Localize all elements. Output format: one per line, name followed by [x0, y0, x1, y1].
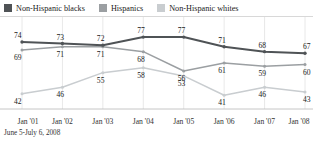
data-label: 60	[303, 69, 311, 77]
data-point	[182, 70, 185, 73]
data-point	[222, 45, 225, 48]
legend-item-hispanics: Hispanics	[99, 4, 143, 13]
data-point	[223, 61, 226, 64]
legend-swatch-hispanics	[99, 4, 107, 12]
data-label: 71	[218, 37, 226, 45]
data-point	[263, 65, 266, 68]
x-tick-label: Jan '07	[254, 117, 275, 126]
data-label: 53	[178, 80, 186, 88]
data-label: 41	[218, 99, 226, 107]
data-point	[101, 71, 104, 74]
data-label: 68	[259, 42, 267, 50]
legend-swatch-blacks	[4, 4, 12, 12]
data-point	[61, 86, 64, 89]
x-tick-label: Jan '04	[133, 117, 154, 126]
data-label: 43	[303, 96, 311, 104]
data-label: 74	[14, 32, 22, 40]
x-axis: Jan '01Jan '02Jan '03Jan '04Jan '05Jan '…	[0, 111, 313, 127]
x-tick-label: Jan '05	[173, 117, 194, 126]
data-point	[101, 43, 104, 46]
data-label: 67	[303, 43, 311, 51]
data-label: 72	[97, 35, 105, 43]
data-point	[61, 42, 64, 45]
data-label: 77	[178, 27, 186, 35]
data-point	[142, 66, 145, 69]
data-label: 55	[97, 77, 105, 85]
chart-legend: Non-Hispanic blacks Hispanics Non-Hispan…	[4, 1, 253, 15]
data-point	[182, 35, 185, 38]
legend-label-whites: Non-Hispanic whites	[169, 4, 238, 13]
data-point	[21, 92, 24, 95]
x-tick-label: Jan '01	[18, 117, 39, 126]
x-tick-label: Jan '03	[92, 117, 113, 126]
footnote: June 5-July 6, 2008	[4, 129, 60, 138]
data-point	[263, 86, 266, 89]
legend-swatch-whites	[157, 4, 165, 12]
data-point	[303, 52, 306, 55]
data-label: 46	[259, 91, 267, 99]
data-point	[223, 94, 226, 97]
data-label: 61	[218, 67, 226, 75]
data-point	[20, 40, 23, 43]
data-point	[142, 35, 145, 38]
data-label: 42	[14, 98, 22, 106]
data-point	[304, 63, 307, 66]
data-point	[142, 50, 145, 53]
data-label: 71	[97, 51, 105, 59]
legend-item-whites: Non-Hispanic whites	[157, 4, 238, 13]
data-label: 71	[56, 51, 64, 59]
plot-area: 7473727777716867697171685661596042465558…	[0, 17, 313, 111]
x-tick-label: Jan '06	[214, 117, 235, 126]
legend-label-hispanics: Hispanics	[111, 4, 143, 13]
data-point	[61, 45, 64, 48]
data-label: 77	[137, 27, 145, 35]
x-tick-label: Jan '08	[289, 117, 310, 126]
data-label: 58	[137, 72, 145, 80]
data-label: 73	[56, 34, 64, 42]
chart-figure: Non-Hispanic blacks Hispanics Non-Hispan…	[0, 0, 313, 143]
data-label: 69	[14, 54, 22, 62]
legend-item-blacks: Non-Hispanic blacks	[4, 4, 85, 13]
data-label: 68	[137, 56, 145, 64]
data-point	[304, 91, 307, 94]
legend-label-blacks: Non-Hispanic blacks	[16, 4, 85, 13]
data-label: 46	[56, 91, 64, 99]
data-label: 59	[259, 70, 267, 78]
data-point	[21, 49, 24, 52]
x-tick-label: Jan '02	[52, 117, 73, 126]
data-point	[263, 50, 266, 53]
